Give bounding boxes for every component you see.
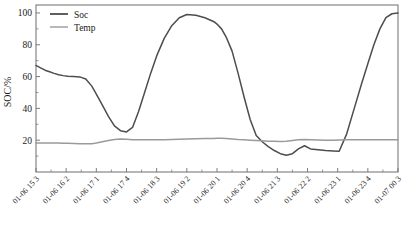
legend-label-soc: Soc xyxy=(74,10,88,20)
legend-label-temp: Temp xyxy=(74,23,96,33)
data-series-group xyxy=(36,13,398,155)
y-tick-label-40: 40 xyxy=(23,104,33,114)
soc-temp-line-chart: 20406080100 01-06 15 301-06 16 201-06 17… xyxy=(0,0,408,229)
series-line-soc xyxy=(36,13,398,155)
y-axis-tick-labels: 20406080100 xyxy=(18,8,33,145)
y-tick-label-80: 80 xyxy=(23,40,33,50)
x-tick-label-12: 01-07 00 3 xyxy=(373,174,403,205)
x-tick-label-11: 01-06 23 4 xyxy=(343,174,373,205)
x-tick-label-0: 01-06 15 3 xyxy=(11,174,41,205)
x-axis-ticks xyxy=(36,168,398,172)
y-axis-ticks xyxy=(36,13,40,156)
x-tick-label-2: 01-06 17 1 xyxy=(71,174,101,205)
x-tick-label-4: 01-06 18 3 xyxy=(131,174,161,205)
y-tick-label-100: 100 xyxy=(18,8,33,18)
chart-root: 20406080100 01-06 15 301-06 16 201-06 17… xyxy=(0,0,408,229)
x-tick-label-6: 01-06 20 1 xyxy=(192,174,222,205)
x-tick-label-10: 01-06 23 1 xyxy=(312,174,342,205)
y-axis-title: SOC/% xyxy=(2,77,13,108)
y-tick-label-20: 20 xyxy=(23,136,33,146)
x-tick-label-8: 01-06 21 3 xyxy=(252,174,282,205)
x-tick-label-5: 01-06 19 2 xyxy=(162,174,192,205)
x-tick-label-1: 01-06 16 2 xyxy=(41,174,71,205)
x-axis-tick-labels: 01-06 15 301-06 16 201-06 17 101-06 17 4… xyxy=(11,174,403,205)
x-tick-label-7: 01-06 20 4 xyxy=(222,174,252,205)
chart-legend: SocTemp xyxy=(50,10,96,33)
y-tick-label-60: 60 xyxy=(23,72,33,82)
x-tick-label-9: 01-06 22 2 xyxy=(282,174,312,205)
x-tick-label-3: 01-06 17 4 xyxy=(101,174,131,205)
